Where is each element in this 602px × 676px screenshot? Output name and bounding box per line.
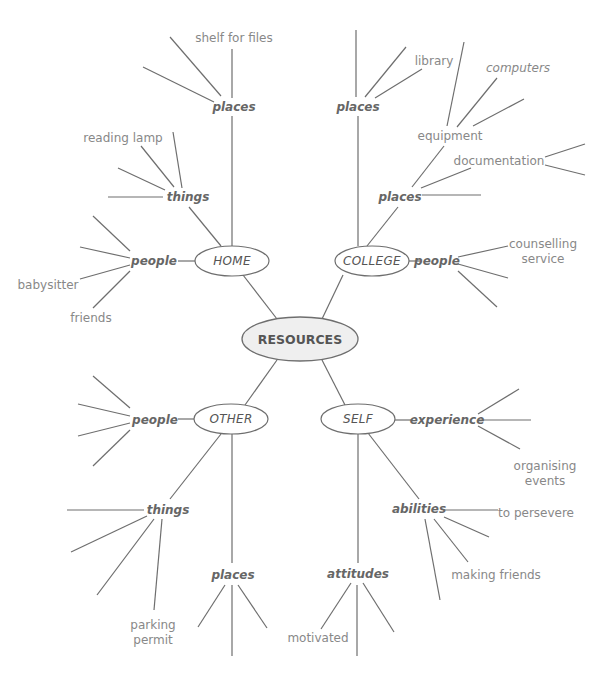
leaf-babysitter: babysitter — [17, 278, 78, 293]
leaf-permit: permit — [133, 633, 172, 648]
leaf-events: events — [525, 474, 565, 489]
leaf-counselling: counselling — [509, 237, 577, 252]
leaf-organising: organising — [514, 459, 577, 474]
center-label: RESOURCES — [258, 334, 342, 347]
college-places-label: places — [378, 191, 421, 203]
self-label: SELF — [343, 413, 373, 425]
leaf-equipment: equipment — [418, 129, 483, 144]
college-label: COLLEGE — [343, 255, 401, 267]
other-label: OTHER — [209, 413, 252, 425]
college-places-top-label: places — [336, 101, 379, 113]
college-people-label: people — [414, 255, 460, 267]
leaf-reading-lamp: reading lamp — [83, 131, 162, 146]
leaf-making-friends: making friends — [451, 568, 541, 583]
self-abilities-label: abilities — [392, 503, 446, 515]
home-people-label: people — [131, 255, 177, 267]
other-places-label: places — [211, 569, 254, 581]
leaf-computers: computers — [486, 61, 550, 76]
home-label: HOME — [213, 255, 251, 267]
self-experience-label: experience — [410, 414, 485, 426]
leaf-parking: parking — [130, 618, 175, 633]
leaf-to-persevere: to persevere — [498, 506, 574, 521]
home-places-label: places — [212, 101, 255, 113]
leaf-library: library — [415, 54, 454, 69]
leaf-friends: friends — [70, 311, 111, 326]
self-attitudes-label: attitudes — [327, 568, 389, 580]
other-people-label: people — [132, 414, 178, 426]
leaf-documentation: documentation — [454, 154, 545, 169]
home-things-label: things — [167, 191, 210, 203]
leaf-service: service — [522, 252, 565, 267]
other-things-label: things — [147, 504, 190, 516]
leaf-motivated: motivated — [287, 631, 348, 646]
leaf-shelf-for-files: shelf for files — [195, 31, 272, 46]
